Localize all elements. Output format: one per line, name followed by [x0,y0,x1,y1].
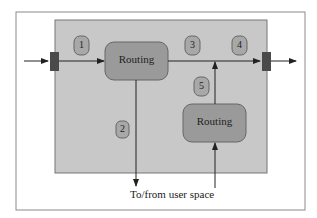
routing-label-2: Routing [183,115,246,127]
output-port [262,52,271,71]
badge-1-label: 1 [74,39,89,50]
badge-5-label: 5 [194,80,209,91]
user-space-label: To/from user space [130,188,214,200]
network-diagram [0,0,317,218]
badge-2-label: 2 [116,123,129,134]
badge-4-label: 4 [232,39,247,50]
input-port [50,52,59,71]
badge-3-label: 3 [185,39,200,50]
routing-label-1: Routing [105,53,168,65]
